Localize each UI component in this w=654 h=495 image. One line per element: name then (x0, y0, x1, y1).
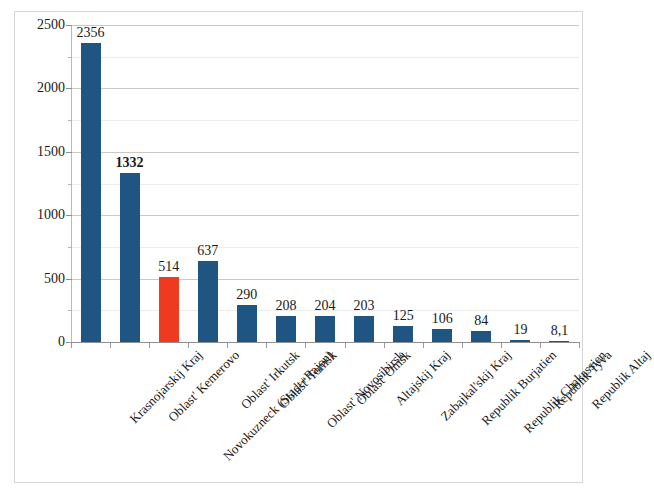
y-axis-tick-label: 2500 (37, 18, 65, 32)
bar-value-label: 204 (315, 299, 336, 313)
x-tick-mark (384, 343, 385, 348)
chart-frame: 05001000150020002500 2356133251463729020… (14, 11, 583, 483)
bar[interactable] (81, 43, 101, 342)
x-tick-mark (423, 343, 424, 348)
y-tick-mark (66, 279, 72, 280)
bar[interactable] (471, 331, 491, 342)
x-tick-mark (227, 343, 228, 348)
y-axis-tick-label: 0 (58, 335, 65, 349)
bar-value-label: 290 (236, 288, 257, 302)
y-axis-tick-labels: 05001000150020002500 (15, 25, 65, 342)
x-axis-line (71, 342, 580, 343)
x-tick-mark (149, 343, 150, 348)
x-tick-mark (579, 343, 580, 348)
y-axis-tick-label: 1500 (37, 145, 65, 159)
bar[interactable] (198, 261, 218, 342)
x-axis-category-labels: Krasnojarskij KrajOblast' KemerovoNovoku… (71, 348, 581, 478)
x-tick-mark (501, 343, 502, 348)
bar[interactable] (120, 173, 140, 342)
bar[interactable] (354, 316, 374, 342)
y-tick-mark-minor (68, 57, 72, 58)
y-tick-mark (66, 88, 72, 89)
bar-value-label: 637 (197, 244, 218, 258)
y-tick-mark-minor (68, 184, 72, 185)
y-axis-tick-label: 2000 (37, 81, 65, 95)
y-tick-mark (66, 215, 72, 216)
bar-value-label: 19 (513, 323, 527, 337)
bar[interactable] (315, 316, 335, 342)
x-tick-mark (266, 343, 267, 348)
y-tick-mark-minor (68, 310, 72, 311)
bar-value-label: 125 (393, 309, 414, 323)
bar[interactable] (510, 340, 530, 342)
x-tick-mark (305, 343, 306, 348)
y-tick-mark-minor (68, 247, 72, 248)
x-tick-mark (540, 343, 541, 348)
bar-value-label: 208 (275, 299, 296, 313)
bar-value-label: 106 (432, 312, 453, 326)
bar-value-label: 1332 (116, 156, 144, 170)
bar[interactable] (276, 316, 296, 342)
bar-value-label: 84 (474, 314, 488, 328)
y-axis-tick-label: 1000 (37, 208, 65, 222)
bar[interactable] (237, 305, 257, 342)
bar[interactable] (393, 326, 413, 342)
bar-value-label: 514 (158, 260, 179, 274)
x-tick-mark (71, 343, 72, 348)
bar[interactable] (549, 341, 569, 343)
bars-layer: 2356133251463729020820420312510684198,1 (71, 25, 579, 342)
bar[interactable] (159, 277, 179, 342)
y-tick-mark (66, 152, 72, 153)
y-axis-tick-label: 500 (44, 272, 65, 286)
y-tick-mark (66, 25, 72, 26)
bar-value-label: 203 (354, 299, 375, 313)
x-tick-mark (462, 343, 463, 348)
x-tick-mark (188, 343, 189, 348)
bar[interactable] (432, 329, 452, 342)
bar-value-label: 2356 (77, 26, 105, 40)
x-tick-mark (345, 343, 346, 348)
bar-value-label: 8,1 (551, 324, 569, 338)
x-tick-mark (110, 343, 111, 348)
y-tick-mark-minor (68, 120, 72, 121)
